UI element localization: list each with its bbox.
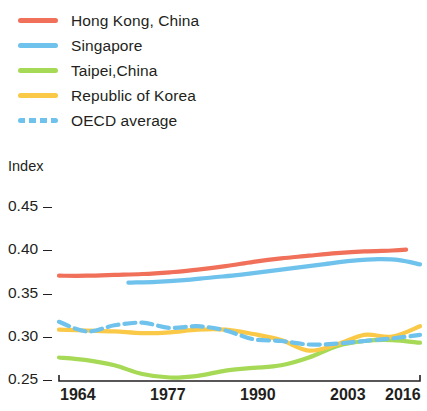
x-axis-line <box>59 375 420 381</box>
series-line <box>59 340 420 378</box>
series-layer <box>59 250 420 378</box>
series-line <box>59 326 420 350</box>
plot-area <box>0 0 427 411</box>
chart-figure: Hong Kong, China Singapore Taipei,China … <box>0 0 427 411</box>
